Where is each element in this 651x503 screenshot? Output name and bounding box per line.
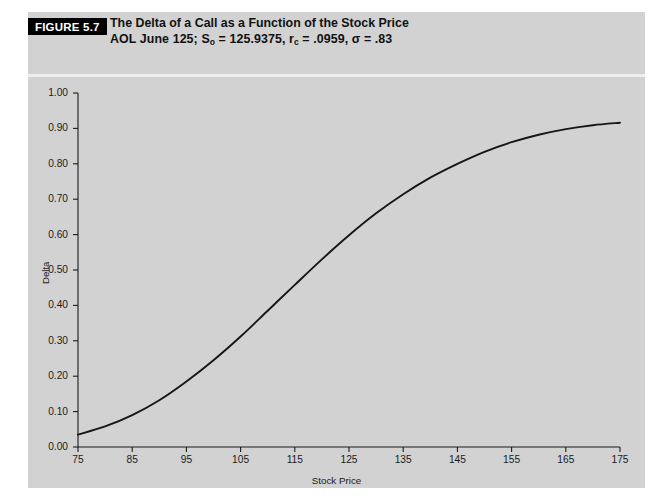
y-tick-label: 1.00 bbox=[26, 87, 68, 98]
y-tick-label: 0.20 bbox=[26, 370, 68, 381]
y-tick-label: 0.30 bbox=[26, 335, 68, 346]
x-tick-label: 135 bbox=[386, 454, 420, 465]
chart-svg bbox=[28, 12, 645, 488]
y-tick-label: 0.40 bbox=[26, 299, 68, 310]
x-tick-label: 115 bbox=[278, 454, 312, 465]
x-tick-label: 165 bbox=[549, 454, 583, 465]
x-axis-title: Stock Price bbox=[28, 475, 645, 486]
y-tick-label: 0.60 bbox=[26, 229, 68, 240]
axis-lines bbox=[78, 93, 620, 447]
y-tick-label: 0.70 bbox=[26, 193, 68, 204]
chart-plot-area: 0.000.100.200.300.400.500.600.700.800.90… bbox=[28, 12, 645, 488]
y-tick-label: 0.90 bbox=[26, 122, 68, 133]
x-tick-label: 75 bbox=[61, 454, 95, 465]
x-tick-label: 125 bbox=[332, 454, 366, 465]
y-tick-label: 0.80 bbox=[26, 158, 68, 169]
y-tick-label: 0.00 bbox=[26, 441, 68, 452]
x-tick-label: 95 bbox=[169, 454, 203, 465]
delta-curve bbox=[78, 123, 620, 435]
x-tick-label: 145 bbox=[440, 454, 474, 465]
x-tick-label: 175 bbox=[603, 454, 637, 465]
axis-ticks bbox=[73, 93, 620, 452]
x-tick-label: 85 bbox=[115, 454, 149, 465]
y-axis-title: Delta bbox=[40, 262, 51, 284]
x-tick-label: 155 bbox=[495, 454, 529, 465]
x-tick-label: 105 bbox=[224, 454, 258, 465]
figure-panel: FIGURE 5.7 The Delta of a Call as a Func… bbox=[28, 12, 645, 488]
y-tick-label: 0.10 bbox=[26, 406, 68, 417]
